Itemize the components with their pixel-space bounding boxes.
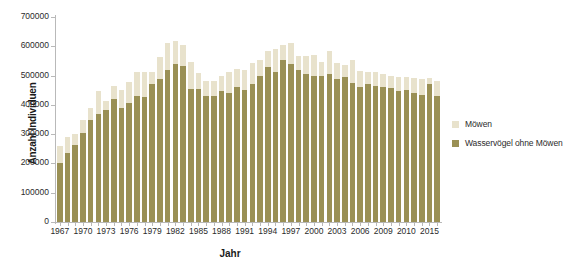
bar-column xyxy=(404,77,410,222)
bar-segment-wasservoegel xyxy=(273,72,279,222)
bar-segment-wasservoegel xyxy=(96,114,102,222)
bar-column xyxy=(419,79,425,222)
bar-segment-moewen xyxy=(226,72,232,93)
bar-column xyxy=(180,45,186,222)
y-axis-tick-label: 300000 xyxy=(3,128,49,138)
bar-segment-moewen xyxy=(149,72,155,84)
bar-segment-moewen xyxy=(165,43,171,70)
bar-segment-wasservoegel xyxy=(111,99,117,222)
bar-segment-moewen xyxy=(288,43,294,64)
bar-segment-moewen xyxy=(173,41,179,64)
bar-segment-wasservoegel xyxy=(142,97,148,222)
bar-segment-wasservoegel xyxy=(365,84,371,222)
bar-column xyxy=(196,73,202,222)
bar-segment-moewen xyxy=(96,91,102,114)
legend-swatch xyxy=(452,140,459,147)
bar-segment-moewen xyxy=(219,76,225,91)
y-axis-tick-label: 500000 xyxy=(3,70,49,80)
bar-column xyxy=(350,60,356,222)
bar-segment-wasservoegel xyxy=(319,76,325,222)
bar-segment-wasservoegel xyxy=(373,86,379,222)
plot-area xyxy=(56,17,441,222)
bar-column xyxy=(342,65,348,222)
bar-segment-moewen xyxy=(119,90,125,108)
bar-segment-wasservoegel xyxy=(103,110,109,222)
bar-segment-wasservoegel xyxy=(350,83,356,222)
bar-column xyxy=(380,74,386,222)
bar-segment-wasservoegel xyxy=(134,96,140,223)
bar-segment-moewen xyxy=(280,45,286,60)
bar-column xyxy=(303,56,309,222)
y-axis-tick-label: 100000 xyxy=(3,187,49,197)
bar-column xyxy=(157,57,163,222)
bar-segment-wasservoegel xyxy=(342,77,348,222)
bar-segment-wasservoegel xyxy=(149,84,155,222)
bar-column xyxy=(411,78,417,222)
bar-segment-wasservoegel xyxy=(396,91,402,222)
bar-segment-moewen xyxy=(404,77,410,89)
bar-column xyxy=(280,45,286,222)
bar-segment-wasservoegel xyxy=(65,153,71,222)
bar-segment-wasservoegel xyxy=(165,70,171,222)
bar-column xyxy=(334,63,340,222)
bar-segment-moewen xyxy=(180,45,186,66)
bar-segment-moewen xyxy=(257,60,263,76)
bar-column xyxy=(88,108,94,222)
bar-segment-wasservoegel xyxy=(434,96,440,223)
legend-item: Möwen xyxy=(452,119,563,129)
bar-column xyxy=(434,81,440,222)
bar-segment-moewen xyxy=(111,86,117,99)
bar-segment-wasservoegel xyxy=(288,64,294,222)
bar-segment-moewen xyxy=(196,73,202,89)
bar-column xyxy=(103,101,109,222)
bar-column xyxy=(257,60,263,222)
bar-segment-wasservoegel xyxy=(427,84,433,222)
bar-segment-moewen xyxy=(250,63,256,84)
bar-column xyxy=(311,55,317,222)
bar-segment-wasservoegel xyxy=(119,108,125,222)
bar-column xyxy=(126,82,132,222)
bar-segment-wasservoegel xyxy=(180,66,186,222)
bar-column xyxy=(165,43,171,222)
bar-column xyxy=(242,70,248,222)
bar-segment-moewen xyxy=(134,72,140,96)
bar-column xyxy=(234,69,240,222)
bar-segment-moewen xyxy=(396,77,402,91)
bar-column xyxy=(203,81,209,222)
bar-segment-wasservoegel xyxy=(357,87,363,222)
bar-column xyxy=(111,86,117,222)
bar-column xyxy=(72,134,78,222)
legend-item: Wasservögel ohne Möwen xyxy=(452,138,563,148)
bar-segment-moewen xyxy=(211,81,217,95)
bar-segment-moewen xyxy=(350,60,356,83)
bar-segment-wasservoegel xyxy=(188,89,194,222)
bar-segment-wasservoegel xyxy=(265,67,271,222)
bar-segment-moewen xyxy=(57,146,63,163)
bar-segment-wasservoegel xyxy=(388,88,394,222)
bar-segment-wasservoegel xyxy=(219,91,225,222)
bar-segment-wasservoegel xyxy=(80,133,86,222)
bar-segment-moewen xyxy=(80,120,86,133)
bar-segment-wasservoegel xyxy=(242,90,248,222)
bar-column xyxy=(119,90,125,222)
bar-segment-moewen xyxy=(373,72,379,86)
bar-segment-wasservoegel xyxy=(280,60,286,222)
bar-column xyxy=(319,62,325,222)
y-axis-tick-label: 700000 xyxy=(3,11,49,21)
bar-column xyxy=(96,91,102,222)
bar-segment-wasservoegel xyxy=(157,79,163,223)
y-axis-tick-label: 600000 xyxy=(3,40,49,50)
bar-segment-moewen xyxy=(65,137,71,153)
bar-segment-wasservoegel xyxy=(327,74,333,222)
bar-column xyxy=(365,72,371,222)
bar-column xyxy=(149,72,155,222)
bar-segment-moewen xyxy=(142,72,148,97)
bar-segment-wasservoegel xyxy=(72,145,78,222)
bar-column xyxy=(273,49,279,222)
y-axis-tick-labels: 0100000200000300000400000500000600000700… xyxy=(0,0,49,272)
chart-figure: Anzahl Individuen 0100000200000300000400… xyxy=(0,0,567,272)
bar-segment-wasservoegel xyxy=(311,76,317,222)
bar-segment-wasservoegel xyxy=(296,70,302,222)
bar-column xyxy=(188,62,194,222)
bar-segment-wasservoegel xyxy=(334,79,340,223)
